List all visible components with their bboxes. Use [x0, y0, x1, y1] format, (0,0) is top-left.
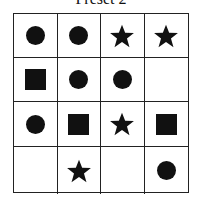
- shape-grid: [13, 13, 189, 193]
- grid-cell-r3-c3: [101, 102, 145, 147]
- circle-icon: [157, 161, 176, 180]
- grid-cell-r1-c3: [101, 14, 145, 58]
- grid-cell-r2-c2: [58, 58, 102, 102]
- grid-cell-r3-c1: [14, 102, 58, 147]
- grid-cell-r4-c1: [14, 147, 58, 194]
- grid-cell-r1-c1: [14, 14, 58, 58]
- circle-icon: [26, 115, 45, 134]
- grid-cell-r3-c2: [58, 102, 102, 147]
- grid-cell-r1-c4: [145, 14, 189, 58]
- circle-icon: [113, 70, 132, 89]
- square-icon: [68, 114, 89, 135]
- grid-cell-r2-c3: [101, 58, 145, 102]
- circle-icon: [26, 26, 45, 45]
- grid-cell-r2-c1: [14, 58, 58, 102]
- star-icon: [153, 23, 179, 49]
- grid-cell-r4-c4: [145, 147, 189, 194]
- square-icon: [156, 114, 177, 135]
- grid-cell-r4-c3: [101, 147, 145, 194]
- grid-cell-r3-c4: [145, 102, 189, 147]
- preset-title: Preset 2: [0, 0, 197, 7]
- star-icon: [109, 23, 135, 49]
- grid-cell-r2-c4: [145, 58, 189, 102]
- star-icon: [66, 158, 92, 184]
- star-icon: [109, 111, 135, 137]
- grid-cell-r1-c2: [58, 14, 102, 58]
- circle-icon: [69, 26, 88, 45]
- circle-icon: [69, 70, 88, 89]
- grid-cell-r4-c2: [58, 147, 102, 194]
- square-icon: [25, 69, 46, 90]
